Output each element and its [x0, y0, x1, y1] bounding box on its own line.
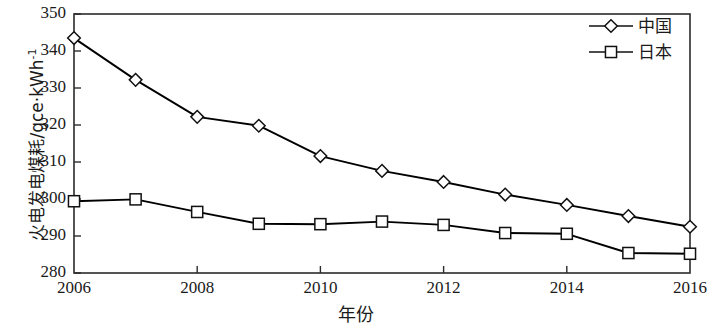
- legend-entry-japan: 日本: [588, 43, 672, 61]
- axis-ticks: [74, 14, 567, 273]
- legend-label: 中国: [638, 18, 672, 35]
- y-axis-tick-label: 330: [22, 77, 66, 97]
- y-axis-tick-label: 310: [22, 151, 66, 171]
- x-axis-tick-label: 2010: [290, 278, 350, 298]
- x-axis-tick-label: 2014: [537, 278, 597, 298]
- x-axis-tick-label: 2008: [167, 278, 227, 298]
- y-axis-tick-label: 290: [22, 225, 66, 245]
- x-axis-title: 年份: [0, 300, 711, 326]
- x-axis-tick-label: 2012: [414, 278, 474, 298]
- square-marker-icon: [588, 43, 634, 61]
- legend-label: 日本: [638, 44, 672, 61]
- thermal-power-coal-consumption-chart: 火电发电煤耗/gce·kWh-1 年份 28029030031032033034…: [0, 0, 711, 331]
- x-axis-tick-label: 2006: [44, 278, 104, 298]
- diamond-marker-icon: [588, 17, 634, 35]
- x-axis-tick-label: 2016: [660, 278, 711, 298]
- y-axis-tick-label: 350: [22, 3, 66, 23]
- y-axis-tick-label: 320: [22, 114, 66, 134]
- y-axis-tick-label: 340: [22, 40, 66, 60]
- data-series-group: [68, 32, 697, 260]
- y-axis-tick-label: 300: [22, 188, 66, 208]
- legend-entry-china: 中国: [588, 17, 672, 35]
